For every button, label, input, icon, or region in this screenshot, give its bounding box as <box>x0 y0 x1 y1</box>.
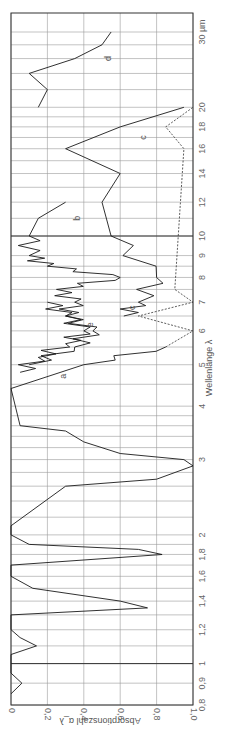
y-tick-label: 1,0 <box>189 708 199 721</box>
series-d <box>29 32 111 107</box>
x-tick-label: 30 µm <box>197 19 207 44</box>
curve-label-e: e <box>85 322 95 327</box>
x-tick-label: 7 <box>197 300 207 305</box>
x-tick-label: 20 <box>197 102 207 112</box>
x-tick-label: 8 <box>197 275 207 280</box>
curve-label-a: a <box>58 374 68 379</box>
curve-label-b: b <box>72 216 82 221</box>
x-tick-label: 0,9 <box>197 677 207 690</box>
x-tick-label: 1,2 <box>197 623 207 636</box>
y-tick-label: 0,2 <box>43 708 53 721</box>
x-tick-label: 16 <box>197 144 207 154</box>
x-tick-label: 10 <box>197 231 207 241</box>
y-tick-label: 0 <box>7 708 17 713</box>
curve-label-c: c <box>138 135 148 140</box>
series-dashed <box>138 107 193 347</box>
series-a <box>11 347 193 694</box>
x-tick-label: 6 <box>197 328 207 333</box>
x-tick-label: 9 <box>197 253 207 258</box>
grid <box>11 13 193 705</box>
series-c <box>66 107 184 316</box>
x-tick-label: 12 <box>197 197 207 207</box>
curve-label-c: c <box>127 305 137 310</box>
x-axis-label: Wellenlänge λ <box>204 339 214 396</box>
y-tick-label: 0,8 <box>152 708 162 721</box>
curve-label-d: d <box>103 56 113 61</box>
y-axis-label: Absorptionszahl α_λ <box>59 716 141 726</box>
x-tick-label: 1,8 <box>197 548 207 561</box>
x-tick-label: 14 <box>197 169 207 179</box>
x-tick-label: 2 <box>197 532 207 537</box>
x-tick-label: 18 <box>197 122 207 132</box>
series-group <box>11 32 193 694</box>
x-tick-label: 4 <box>197 404 207 409</box>
x-tick-label: 1 <box>197 661 207 666</box>
absorption-chart: 0,80,911,21,41,61,8234567891012141618203… <box>0 0 230 732</box>
x-tick-label: 1,4 <box>197 595 207 608</box>
x-tick-label: 1,6 <box>197 570 207 583</box>
curve-labels: abcdec <box>58 56 148 379</box>
x-tick-label: 3 <box>197 457 207 462</box>
